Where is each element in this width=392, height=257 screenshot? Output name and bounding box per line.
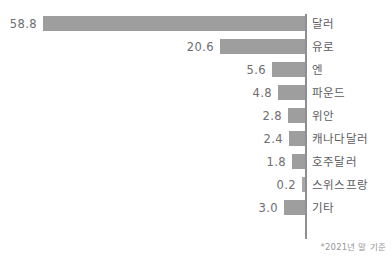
bar-value-label: 4.8 (236, 86, 272, 100)
bar-row: 1.8호주달러 (0, 152, 392, 175)
clipped-header-text (8, 0, 188, 7)
bar-row: 58.8달러 (0, 14, 392, 37)
bar-category-label: 파운드 (312, 85, 346, 101)
bar-value-label: 5.6 (230, 63, 266, 77)
bar (292, 154, 305, 169)
bar-value-label: 58.8 (1, 17, 37, 31)
bar-chart: 58.8달러20.6유로5.6엔4.8파운드2.8위안2.4캐나다달러1.8호주… (0, 0, 392, 257)
bar-value-label: 20.6 (178, 40, 214, 54)
bar-category-label: 유로 (312, 39, 334, 55)
bar (43, 16, 305, 31)
bar-rows: 58.8달러20.6유로5.6엔4.8파운드2.8위안2.4캐나다달러1.8호주… (0, 14, 392, 221)
bar-row: 4.8파운드 (0, 83, 392, 106)
bar-category-label: 스위스프랑 (312, 177, 368, 193)
bar-category-label: 캐나다달러 (312, 131, 368, 147)
bar (288, 108, 305, 123)
bar-category-label: 호주달러 (312, 154, 357, 170)
bar-value-label: 2.4 (247, 132, 283, 146)
bar-category-label: 위안 (312, 108, 334, 124)
bar-row: 2.4캐나다달러 (0, 129, 392, 152)
bar (278, 85, 305, 100)
bar-row: 3.0기타 (0, 198, 392, 221)
bar-value-label: 0.2 (260, 178, 296, 192)
bar-category-label: 엔 (312, 62, 323, 78)
bar-category-label: 달러 (312, 16, 334, 32)
bar-row: 5.6엔 (0, 60, 392, 83)
bar-value-label: 2.8 (246, 109, 282, 123)
bar (302, 177, 305, 192)
chart-footnote: *2021년 말 기준 (321, 242, 387, 253)
bar-category-label: 기타 (312, 200, 334, 216)
bar (220, 39, 305, 54)
bar (289, 131, 305, 146)
bar (272, 62, 305, 77)
bar-row: 2.8위안 (0, 106, 392, 129)
bar-row: 0.2스위스프랑 (0, 175, 392, 198)
bar-row: 20.6유로 (0, 37, 392, 60)
bar (284, 200, 305, 215)
bar-value-label: 1.8 (250, 155, 286, 169)
bar-value-label: 3.0 (242, 201, 278, 215)
